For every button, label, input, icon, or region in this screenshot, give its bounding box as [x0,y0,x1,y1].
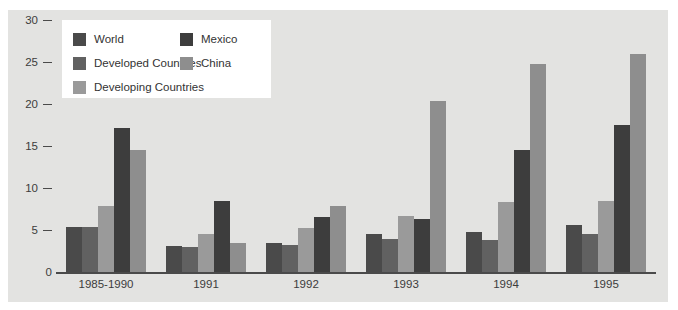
bar [614,125,630,272]
y-axis-tick-mark [43,62,52,63]
x-axis-tick-label: 1995 [556,278,656,290]
y-axis-tick-mark [43,230,52,231]
legend-swatch-mexico [180,33,193,46]
y-axis-tick-label: 30 [25,13,38,27]
y-axis-tick-25: 25 [0,55,52,69]
legend-swatch-world [73,33,86,46]
x-axis-tick-label: 1994 [456,278,556,290]
bar-chart: 051015202530 1985-1990199119921993199419… [0,0,678,310]
bar [266,243,282,272]
y-axis-tick-mark [43,188,52,189]
y-axis-tick-label: 10 [25,181,38,195]
bar-group-bars [566,0,646,272]
bar [430,101,446,272]
bar [198,234,214,272]
y-axis-tick-label: 25 [25,55,38,69]
legend-item: China [180,52,237,74]
legend-item-label: China [201,57,231,69]
bar [214,201,230,272]
y-axis-tick-label: 5 [32,223,38,237]
bar [314,217,330,272]
bar-group-bars [466,0,546,272]
bar [114,128,130,272]
x-axis-tick-label: 1993 [356,278,456,290]
y-axis-tick-mark [43,20,52,21]
y-axis-tick-mark [43,104,52,105]
bar [298,228,314,272]
y-axis-tick-15: 15 [0,139,52,153]
bar [514,150,530,272]
bar [498,202,514,272]
x-axis-baseline [56,272,656,274]
y-axis-tick-10: 10 [0,181,52,195]
bar [166,246,182,272]
y-axis-tick-0: 0 [0,265,52,279]
bar [398,216,414,272]
bar [98,206,114,272]
bar-group-bars [266,0,346,272]
bar-group [266,0,346,272]
legend-swatch-developed-countries [73,57,86,70]
bar [630,54,646,272]
legend-item-label: World [94,33,124,45]
y-axis-tick-label: 15 [25,139,38,153]
bar [598,201,614,272]
chart-legend: WorldDeveloped CountriesDeveloping Count… [62,20,271,98]
bar-group [566,0,646,272]
bar-group [466,0,546,272]
bar-group [366,0,446,272]
bar [366,234,382,272]
legend-column-right: MexicoChina [180,28,237,76]
x-axis-tick-label: 1992 [256,278,356,290]
bar [330,206,346,272]
legend-item: Developing Countries [73,76,204,98]
y-axis-tick-20: 20 [0,97,52,111]
bar [414,219,430,272]
bar [466,232,482,272]
y-axis-tick-label: 20 [25,97,38,111]
y-axis-tick-mark [43,146,52,147]
bar [482,240,498,272]
bar [566,225,582,272]
bar [66,227,82,272]
legend-item-label: Mexico [201,33,237,45]
legend-swatch-china [180,57,193,70]
bar [382,239,398,272]
y-axis-tick-30: 30 [0,13,52,27]
bar [182,247,198,272]
bar [530,64,546,272]
legend-item: Mexico [180,28,237,50]
bar [282,245,298,272]
bar [82,227,98,272]
bar [582,234,598,272]
bar [230,243,246,272]
bar [130,150,146,272]
legend-item-label: Developing Countries [94,81,204,93]
y-axis-tick-5: 5 [0,223,52,237]
x-axis-tick-label: 1985-1990 [56,278,156,290]
bar-group-bars [366,0,446,272]
x-axis-tick-label: 1991 [156,278,256,290]
legend-swatch-developing-countries [73,81,86,94]
y-axis-tick-label: 0 [46,265,52,279]
